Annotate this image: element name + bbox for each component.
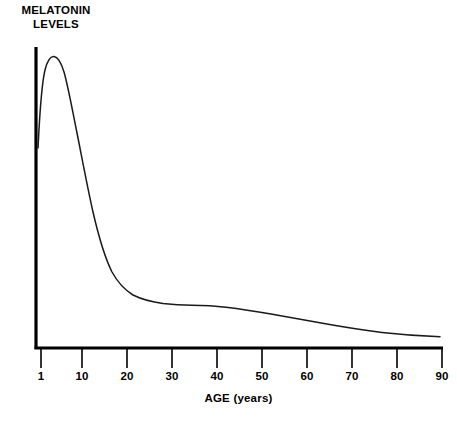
x-tick-label-1: 1 [21,370,61,382]
x-tick-label-40: 40 [197,370,237,382]
x-tick-label-10: 10 [62,370,102,382]
axes [35,47,444,349]
x-tick-label-70: 70 [332,370,372,382]
x-tick-label-50: 50 [242,370,282,382]
x-axis-label-wrap: AGE (years) [0,392,457,404]
melatonin-curve [38,56,440,336]
x-tick-label-20: 20 [107,370,147,382]
x-axis-ticks [41,349,442,368]
melatonin-age-chart: MELATONIN LEVELS 1 10 20 30 40 50 60 70 … [0,0,457,422]
x-axis-label: AGE (years) [204,392,272,404]
x-tick-label-60: 60 [287,370,327,382]
plot-area [0,0,457,422]
x-tick-label-30: 30 [152,370,192,382]
x-tick-label-90: 90 [422,370,457,382]
x-tick-label-80: 80 [377,370,417,382]
